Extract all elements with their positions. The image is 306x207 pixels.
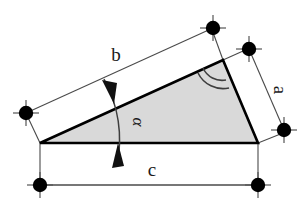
dimension-c-label: c: [148, 159, 156, 180]
triangle-diagram-svg: b a c α: [0, 0, 306, 207]
dimension-endpoint-dot: [27, 172, 53, 198]
angle-alpha-label: α: [129, 118, 148, 128]
dimension-b-label: b: [111, 44, 121, 65]
dimension-endpoint-dot: [200, 15, 226, 41]
dimension-endpoint-dot: [236, 36, 262, 62]
angle-alpha-arrowhead-upper: [102, 80, 117, 104]
marker-dot: [33, 178, 47, 192]
dimension-c: c: [40, 143, 258, 188]
marker-dot: [206, 21, 220, 35]
marker-dot: [277, 123, 291, 137]
marker-dot: [242, 42, 256, 56]
geometry-diagram-canvas: b a c α: [0, 0, 306, 207]
angle-alpha-arrowhead-lower: [112, 143, 124, 168]
dimension-a-label: a: [270, 86, 291, 95]
dimension-endpoint-dot: [13, 100, 39, 126]
dimension-endpoint-dot: [271, 117, 297, 143]
marker-dot: [251, 178, 265, 192]
shaded-triangle: [40, 60, 258, 143]
marker-dot: [19, 106, 33, 120]
dimension-endpoint-dot: [245, 172, 271, 198]
